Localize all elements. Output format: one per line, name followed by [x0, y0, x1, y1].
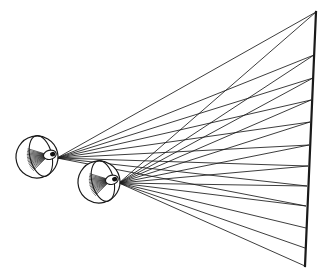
- ray-line: [119, 183, 306, 228]
- ray-line: [119, 183, 307, 186]
- ray-line: [57, 145, 309, 158]
- right-eye: [74, 157, 125, 208]
- right-eye-rays: [119, 12, 316, 266]
- ray-line: [119, 12, 316, 183]
- ray-line: [119, 183, 305, 266]
- ray-line: [119, 183, 306, 206]
- ray-line: [57, 55, 314, 158]
- diagram-canvas: [0, 0, 331, 279]
- screen-layer: [305, 12, 316, 266]
- ray-line: [119, 100, 311, 183]
- left-eye: [12, 132, 63, 183]
- projection-plane-line: [305, 12, 316, 266]
- ray-layer: [57, 12, 316, 266]
- ray-line: [57, 100, 311, 158]
- eye-layer: [12, 132, 125, 208]
- ray-line: [57, 12, 316, 158]
- ray-line: [119, 183, 305, 248]
- optics-diagram-figure: [0, 0, 331, 279]
- ray-line: [57, 78, 313, 158]
- ray-line: [119, 166, 308, 183]
